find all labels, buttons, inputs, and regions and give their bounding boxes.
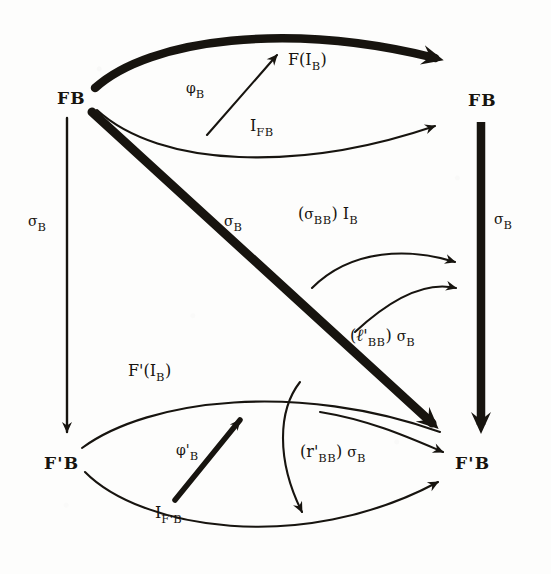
diagram-canvas: FB FB F'B F'B F(IB) φB IFB σB σB σB (σBB… (0, 0, 551, 574)
edge-label-sigma-b-left: σB (28, 213, 46, 233)
node-fprimeb-bottom-right: F'B (455, 455, 490, 472)
node-fb-top-right: FB (468, 92, 497, 109)
arrow-bottom-thin-down (85, 472, 438, 527)
edge-label-sigma-b-diagonal: σB (224, 213, 242, 233)
node-fprimeb-bottom-left: F'B (44, 455, 79, 472)
node-fb-top-left: FB (57, 90, 86, 107)
edge-label-i-fprime-b: IF'B (155, 505, 182, 525)
edge-label-r-bb-sigma-b: (r'BB) σB (300, 444, 366, 464)
edge-label-sigma-b-right: σB (494, 211, 512, 231)
edge-label-ell-bb-sigma-b: (ℓ'BB) σB (350, 327, 415, 348)
edge-label-phi-prime-b: φ'B (176, 442, 199, 462)
edge-label-phi-b: φB (186, 80, 205, 100)
edge-label-fprime-i-b: F'(IB) (128, 363, 171, 383)
diagram-strokes (0, 0, 551, 574)
edge-label-f-i-b: F(IB) (288, 52, 327, 72)
arrow-sigma-bb-i-b (312, 254, 455, 288)
arrow-bottom-thin-up (82, 402, 440, 448)
edge-label-sigma-bb-i-b: (σBB) IB (298, 206, 358, 226)
arrow-top-thick (95, 38, 435, 88)
edge-label-i-fb: IFB (250, 118, 274, 138)
arrow-ell-bb-sigma-b (355, 286, 456, 332)
